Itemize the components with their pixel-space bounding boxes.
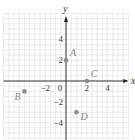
y-axis-arrow-icon	[64, 16, 68, 22]
x-tick-label: 2	[85, 83, 90, 93]
x-tick-label: −2	[40, 83, 50, 93]
point-a	[64, 58, 69, 63]
point-d	[74, 110, 79, 115]
coordinate-plane: x y −202442−2−4 ABCD	[0, 0, 135, 140]
y-tick-label: 4	[59, 34, 64, 44]
y-tick-label: 2	[59, 55, 64, 65]
x-axis-label: x	[130, 75, 135, 86]
y-axis-label: y	[62, 3, 68, 14]
y-tick-label: −2	[53, 97, 63, 107]
point-label-a: A	[69, 47, 77, 58]
x-tick-label: 4	[105, 83, 110, 93]
point-label-d: D	[79, 111, 88, 122]
point-label-b: B	[14, 91, 20, 102]
x-axis-arrow-icon	[123, 79, 128, 83]
x-tick-label: 0	[58, 83, 63, 93]
point-b	[22, 89, 27, 94]
point-c	[85, 79, 90, 84]
point-label-c: C	[91, 68, 98, 79]
y-tick-label: −4	[53, 118, 63, 128]
